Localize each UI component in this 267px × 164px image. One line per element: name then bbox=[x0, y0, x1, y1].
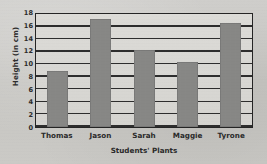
bar-slot bbox=[209, 14, 252, 127]
y-tick-label: 2 bbox=[16, 112, 33, 119]
bar-slot bbox=[36, 14, 79, 127]
y-tick-label: 18 bbox=[16, 10, 33, 17]
x-tick-label: Tyrone bbox=[209, 131, 253, 140]
y-tick-label: 6 bbox=[16, 86, 33, 93]
bar-series bbox=[36, 14, 252, 127]
bar-slot bbox=[122, 14, 165, 127]
y-tick-label: 8 bbox=[16, 74, 33, 81]
bar bbox=[220, 23, 241, 127]
bar-slot bbox=[166, 14, 209, 127]
y-tick-label: 0 bbox=[16, 125, 33, 132]
x-tick-label: Thomas bbox=[35, 131, 79, 140]
y-axis-tick-labels: 024681012141618 bbox=[16, 13, 33, 128]
y-tick-label: 4 bbox=[16, 99, 33, 106]
bar bbox=[47, 71, 68, 128]
x-tick-label: Sarah bbox=[122, 131, 166, 140]
x-tick-label: Jason bbox=[79, 131, 123, 140]
x-axis-title: Students' Plants bbox=[35, 146, 253, 155]
bar bbox=[134, 50, 155, 127]
bar-slot bbox=[79, 14, 122, 127]
bar-chart-figure: Height (in cm) 024681012141618 ThomasJas… bbox=[0, 0, 267, 164]
y-tick-label: 14 bbox=[16, 35, 33, 42]
y-tick-label: 16 bbox=[16, 22, 33, 29]
x-axis-tick-labels: ThomasJasonSarahMaggieTyrone bbox=[35, 131, 253, 140]
y-tick-label: 12 bbox=[16, 48, 33, 55]
bar bbox=[90, 19, 111, 127]
x-tick-label: Maggie bbox=[166, 131, 210, 140]
bar bbox=[177, 62, 198, 127]
plot-area bbox=[35, 13, 253, 128]
y-tick-label: 10 bbox=[16, 61, 33, 68]
